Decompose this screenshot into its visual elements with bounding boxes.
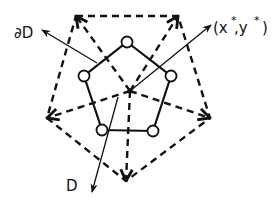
inner-node-circle [166, 71, 177, 82]
pentagon-domain-diagram: ∂D D (x * ,y * ) [0, 0, 279, 205]
point-label-y: ,y [234, 19, 248, 37]
point-label-x: (x [213, 19, 228, 37]
boundary-label: ∂D [14, 24, 33, 42]
inner-node-circle [148, 126, 159, 137]
dashed-spoke [126, 91, 130, 181]
inner-node-circle [122, 37, 133, 48]
dashed-spoke [47, 91, 130, 118]
dashed-spoke [130, 91, 210, 118]
domain-label: D [66, 177, 78, 195]
inner-node-circle [97, 125, 108, 136]
inner-node-circle [79, 71, 90, 82]
point-label-close: ) [262, 19, 268, 37]
point-label-star-y: * [254, 14, 260, 27]
boundary-pointer-arrow [42, 30, 97, 63]
point-label: (x * ,y * ) [213, 14, 268, 37]
